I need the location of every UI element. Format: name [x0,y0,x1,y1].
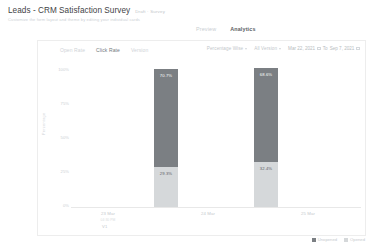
calendar-icon [317,47,321,51]
bar-25-mar[interactable]: 68.6% 32.4% [254,68,278,207]
bar-segment-unopened: 68.6% [254,68,278,163]
date-range-picker[interactable]: Mar 22, 2021 To Sep 7, 2021 [288,46,360,51]
x-axis-label-23-mar: 23 Mar 04:30 PM [78,211,138,222]
bar-segment-unopened: 70.7% [154,69,178,167]
legend-swatch-unopened [312,238,316,242]
x-axis-label-text: 25 Mar [278,211,338,216]
y-axis-tick-0: 0% [51,203,69,208]
chevron-down-icon [279,48,281,50]
sub-tab-click-rate[interactable]: Click Rate [96,47,120,53]
calendar-icon [356,47,360,51]
legend-label-unopened: Unopened [318,237,337,242]
date-to-value: Sep 7, 2021 [330,46,355,51]
analytics-card: Open Rate Click Rate Version Percentage … [37,40,366,236]
plot-area: 70.7% 29.3% 68.6% 32.4% [76,69,357,207]
y-axis-tick-50: 50% [51,135,69,140]
bar-label-opened: 32.4% [260,166,272,207]
bar-segment-opened: 32.4% [254,162,278,207]
sub-tab-bar: Open Rate Click Rate Version [60,47,148,53]
top-tab-bar: Preview Analytics [196,26,256,34]
version-dropdown-label: All Version [254,46,277,51]
x-axis-label-24-mar: 24 Mar [178,211,238,216]
y-axis-tick-100: 100% [51,67,69,72]
page-subtitle: Customize the form layout and theme by e… [8,17,365,22]
tab-preview[interactable]: Preview [196,26,216,34]
legend-item-unopened[interactable]: Unopened [312,237,337,242]
bar-segment-opened: 29.3% [154,167,178,207]
chart-legend: Unopened Opened [312,237,365,242]
page-title-meta: Draft · Survey [135,9,165,14]
bar-label-unopened: 68.6% [260,72,272,163]
legend-swatch-opened [344,238,348,242]
card-toolbar: Open Rate Click Rate Version Percentage … [38,41,365,61]
bar-label-unopened: 70.7% [160,73,172,167]
x-axis-line [71,207,361,208]
x-axis-label-25-mar: 25 Mar [278,211,338,216]
date-from-value: Mar 22, 2021 [288,46,315,51]
sub-tab-open-rate[interactable]: Open Rate [60,47,85,53]
version-dropdown[interactable]: All Version [254,46,281,51]
y-axis-title: Percentage [42,113,46,135]
x-axis-label-text: 23 Mar [78,211,138,216]
title-row: Leads - CRM Satisfaction Survey Draft · … [8,6,365,15]
stacked-bar-chart: Percentage 100% 75% 50% 25% 0% 70.7% 29.… [38,61,365,236]
bar-label-opened: 29.3% [160,171,172,207]
page-header: Leads - CRM Satisfaction Survey Draft · … [0,0,373,22]
x-axis-sublabel-text: 04:30 PM [78,218,138,222]
legend-label-opened: Opened [350,237,365,242]
sub-tab-version[interactable]: Version [131,47,148,53]
date-separator: To [323,46,328,51]
bar-24-mar[interactable]: 70.7% 29.3% [154,69,178,207]
y-axis-tick-25: 25% [51,169,69,174]
y-axis-tick-75: 75% [51,101,69,106]
filter-bar: Percentage Wise All Version Mar 22, 2021… [207,46,360,51]
chevron-down-icon [245,48,247,50]
version-axis-label: V1 [102,224,108,229]
x-axis-label-text: 24 Mar [178,211,238,216]
metric-dropdown[interactable]: Percentage Wise [207,46,247,51]
metric-dropdown-label: Percentage Wise [207,46,243,51]
legend-item-opened[interactable]: Opened [344,237,365,242]
tab-analytics[interactable]: Analytics [230,26,255,34]
page-title: Leads - CRM Satisfaction Survey [8,6,130,15]
